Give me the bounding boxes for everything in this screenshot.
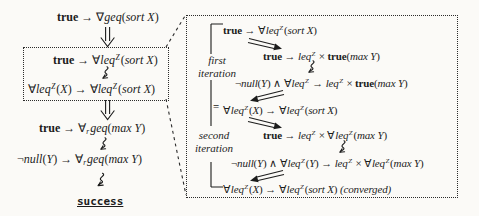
double-down-arrow-icon bbox=[100, 100, 116, 121]
derivation-figure: true → ∇geq(sort X) true → ∀leqZ(sort X)… bbox=[0, 0, 479, 216]
squiggle-arrow-down-icon bbox=[337, 140, 350, 154]
formula-iter1-call: true → leqZ × true(max Y) bbox=[263, 47, 380, 63]
squiggle-arrow-down-icon bbox=[95, 172, 109, 188]
zoom-connector-bottom bbox=[166, 99, 186, 195]
squiggle-arrow-down-icon bbox=[306, 60, 319, 74]
zoom-connector-top bbox=[166, 16, 185, 47]
second-iteration-label: second iteration bbox=[191, 129, 237, 155]
iteration-bracket-rail bbox=[187, 16, 227, 197]
iteration-detail-panel: first iteration second iteration = true … bbox=[186, 15, 458, 198]
formula-claim-rgeq: ¬null(Y) → ∀rgeq(max Y) bbox=[17, 152, 142, 170]
formula-goal-leq: true → ∀leqZ(sort X) bbox=[223, 21, 317, 37]
squiggle-arrow-down-icon bbox=[100, 66, 113, 80]
first-iteration-label: first iteration bbox=[195, 54, 239, 80]
formula-goal-rgeq: true → ∀rgeq(max Y) bbox=[39, 121, 145, 139]
formula-converged: ∀leqZ(X) → ∀leqZ(sort X) (converged) bbox=[223, 180, 391, 196]
success-label: success bbox=[77, 195, 123, 208]
bracket-junction-equals: = bbox=[213, 100, 219, 112]
formula-goal-geq: true → ∇geq(sort X) bbox=[57, 10, 159, 24]
double-down-arrow-icon bbox=[100, 27, 116, 48]
formula-goal-leq: true → ∀leqZ(sort X) bbox=[53, 51, 158, 67]
formula-iter2-call: true → leqZ × ∀leqZ(max Y) bbox=[263, 126, 387, 142]
squiggle-arrow-down-icon bbox=[98, 137, 111, 151]
formula-inv-leq: ∀leqZ(X) → ∀leqZ(sort X) bbox=[28, 80, 155, 96]
boxed-derivation-step: true → ∀leqZ(sort X) ∀leqZ(X) → ∀leqZ(so… bbox=[23, 47, 169, 101]
